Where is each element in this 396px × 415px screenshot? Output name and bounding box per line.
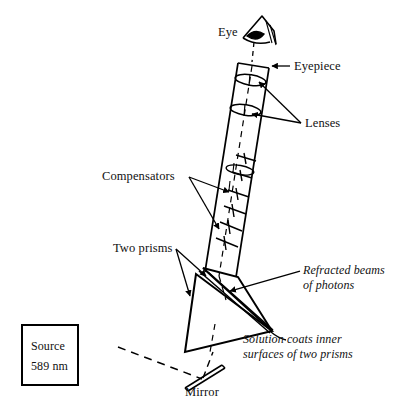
diagram-canvas: Eye Eyepiece Lenses Compensators Two pri…	[0, 0, 396, 415]
source-box-line2: 589 nm	[31, 359, 68, 373]
label-two-prisms: Two prisms	[113, 241, 173, 256]
label-refracted-beams-line2: of photons	[303, 278, 354, 292]
eye-icon	[243, 16, 276, 45]
label-mirror: Mirror	[185, 385, 219, 400]
instrument-tube	[205, 63, 269, 277]
lenses-leader	[252, 82, 301, 123]
optical-axis	[219, 66, 252, 276]
label-compensators: Compensators	[102, 169, 175, 184]
source-box	[22, 325, 78, 385]
label-refracted-beams-line1: Refracted beams	[303, 263, 385, 277]
source-box-line1: Source	[31, 339, 65, 353]
compensators-leader	[189, 177, 229, 229]
label-lenses: Lenses	[305, 116, 340, 131]
label-solution-line1: Solution coats inner	[243, 332, 342, 346]
label-eyepiece: Eyepiece	[294, 59, 341, 74]
two-prisms-leader	[176, 249, 206, 296]
label-solution-line2: surfaces of two prisms	[243, 347, 353, 361]
label-eye: Eye	[218, 25, 238, 40]
sight-line	[252, 42, 254, 62]
